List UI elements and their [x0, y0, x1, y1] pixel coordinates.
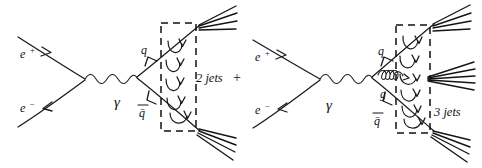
- photon-propagator-right: [320, 75, 372, 84]
- lower-jet-right: [431, 131, 470, 162]
- photon-label-right: γ: [326, 97, 333, 113]
- right-diagram: e + e − γ q g q̄ 3 jets: [253, 5, 475, 162]
- quark-label-right: q: [378, 44, 384, 58]
- electron-charge-right: −: [265, 101, 270, 111]
- gluon-line-right: [378, 71, 409, 81]
- gluon-label-right: g: [380, 87, 386, 101]
- positron-line-right: [253, 40, 320, 79]
- electron-charge-left: −: [30, 99, 35, 109]
- plus-operator: +: [233, 70, 241, 85]
- quark-label-left: q: [141, 43, 147, 57]
- result-label-left: 2 jets: [196, 71, 223, 85]
- electron-line-right: [253, 80, 320, 128]
- upper-jet-right: [433, 5, 471, 31]
- photon-propagator-left: [85, 75, 137, 84]
- electron-label-left: e: [20, 101, 26, 115]
- antiquark-label-left: q̄: [139, 106, 145, 120]
- feynman-diagram-figure: e + e − γ q q̄ 2 jets +: [0, 0, 482, 168]
- lower-jet-left: [197, 129, 236, 160]
- left-diagram-labels: e + e − γ q q̄ 2 jets +: [20, 43, 241, 120]
- upper-jet-left: [199, 6, 237, 30]
- positron-charge-right: +: [265, 48, 270, 58]
- antiquark-label-right: q̄: [374, 114, 380, 128]
- feynman-diagram-canvas: e + e − γ q q̄ 2 jets +: [0, 0, 482, 168]
- positron-line-left: [18, 37, 85, 79]
- result-label-right: 3 jets: [433, 105, 461, 119]
- electron-line-left: [18, 80, 85, 127]
- electron-label-right: e: [255, 103, 261, 117]
- left-diagram: e + e − γ q q̄ 2 jets +: [18, 6, 241, 160]
- positron-label-left: e: [20, 47, 26, 61]
- photon-label-left: γ: [114, 94, 121, 110]
- antiquark-line-right: [372, 78, 434, 131]
- positron-label-right: e: [255, 50, 261, 64]
- positron-charge-left: +: [30, 45, 35, 55]
- middle-jet-right: [428, 62, 475, 90]
- hadronization-hooks-left: [166, 39, 191, 123]
